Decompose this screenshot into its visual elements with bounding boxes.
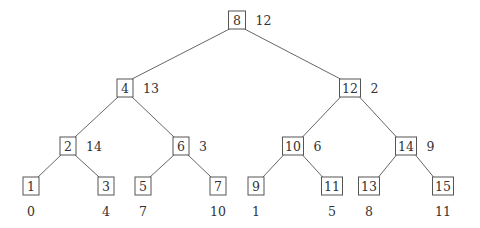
tree-node-3: 34 (98, 177, 114, 219)
tree-node-13: 138 (359, 177, 380, 219)
node-key: 11 (324, 179, 340, 194)
node-value: 2 (371, 81, 379, 96)
tree-edge-n6-n5 (150, 155, 174, 177)
tree-edge-n8-n12 (245, 29, 341, 79)
tree-edge-n10-n11 (303, 155, 323, 177)
tree-edges (38, 29, 434, 177)
tree-node-11: 115 (322, 177, 343, 219)
node-value: 7 (139, 204, 147, 219)
node-value: 14 (86, 139, 102, 154)
tree-edge-n4-n2 (75, 97, 118, 137)
node-value: 6 (314, 139, 322, 154)
node-key: 7 (214, 179, 222, 194)
node-key: 8 (233, 13, 241, 28)
node-key: 13 (361, 179, 377, 194)
node-key: 1 (27, 179, 35, 194)
tree-node-1: 10 (23, 177, 39, 219)
node-key: 14 (398, 139, 414, 154)
tree-node-14: 149 (396, 137, 435, 155)
node-value: 4 (102, 204, 110, 219)
node-value: 12 (256, 13, 272, 28)
node-key: 3 (102, 179, 110, 194)
node-key: 2 (64, 139, 72, 154)
node-value: 3 (199, 139, 207, 154)
tree-edge-n14-n15 (416, 155, 434, 177)
tree-node-6: 63 (173, 137, 207, 155)
tree-edge-n10-n9 (263, 155, 284, 177)
node-value: 13 (143, 81, 159, 96)
node-value: 9 (427, 139, 435, 154)
tree-node-4: 413 (117, 79, 159, 97)
tree-node-10: 106 (283, 137, 322, 155)
node-value: 10 (210, 204, 226, 219)
node-key: 5 (139, 179, 147, 194)
tree-nodes: 8124131222146310614910345771091115138151… (23, 11, 454, 219)
tree-node-9: 91 (248, 177, 264, 219)
tree-node-12: 122 (340, 79, 379, 97)
tree-node-8: 812 (229, 11, 272, 29)
tree-edge-n12-n10 (303, 97, 341, 137)
node-key: 4 (121, 81, 129, 96)
tree-node-7: 710 (210, 177, 226, 219)
tree-node-5: 57 (135, 177, 151, 219)
node-value: 0 (27, 204, 35, 219)
tree-edge-n2-n3 (75, 155, 99, 177)
binary-tree-diagram: 8124131222146310614910345771091115138151… (0, 0, 480, 228)
node-value: 8 (365, 204, 373, 219)
node-key: 6 (177, 139, 185, 154)
node-value: 5 (328, 204, 336, 219)
node-value: 1 (252, 204, 260, 219)
tree-node-2: 214 (60, 137, 102, 155)
tree-edge-n4-n6 (132, 97, 174, 137)
tree-edge-n2-n1 (38, 155, 61, 177)
node-key: 12 (342, 81, 358, 96)
node-key: 15 (435, 179, 451, 194)
tree-edge-n6-n7 (188, 155, 211, 177)
tree-edge-n14-n13 (379, 155, 397, 177)
tree-edge-n8-n4 (132, 29, 230, 79)
tree-node-15: 1511 (433, 177, 454, 219)
node-key: 9 (252, 179, 260, 194)
node-value: 11 (435, 204, 451, 219)
tree-edge-n12-n14 (360, 97, 397, 137)
node-key: 10 (285, 139, 301, 154)
